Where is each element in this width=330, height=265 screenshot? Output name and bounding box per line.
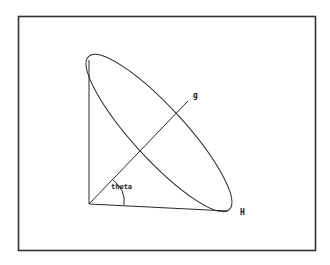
- frame-border: [19, 17, 316, 251]
- g-axis-label: g: [193, 91, 198, 100]
- h-axis-line: [89, 204, 228, 211]
- g-axis-line: [89, 101, 188, 204]
- h-axis-label: H: [240, 208, 245, 217]
- theta-label: theta: [111, 183, 132, 191]
- ellipse: [70, 39, 249, 227]
- diagram-canvas: g H theta: [0, 0, 330, 265]
